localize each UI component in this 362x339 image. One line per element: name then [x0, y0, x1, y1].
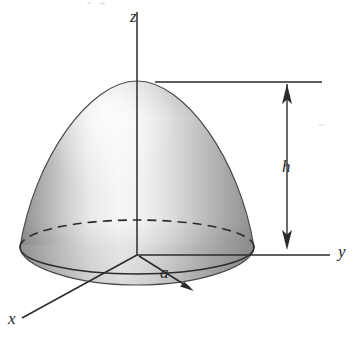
axis-label-x: x	[8, 310, 16, 327]
dimension-label-h: h	[282, 158, 291, 175]
scan-speck	[87, 2, 91, 4]
paraboloid-highlight	[46, 58, 190, 242]
scan-speck	[318, 124, 325, 126]
dimension-label-a: a	[160, 264, 169, 281]
figure-canvas	[0, 0, 362, 339]
axis-label-z: z	[130, 8, 137, 25]
scan-speck	[100, 2, 105, 5]
axis-label-y: y	[338, 243, 346, 260]
paraboloid-figure: z y x h a	[0, 0, 362, 339]
